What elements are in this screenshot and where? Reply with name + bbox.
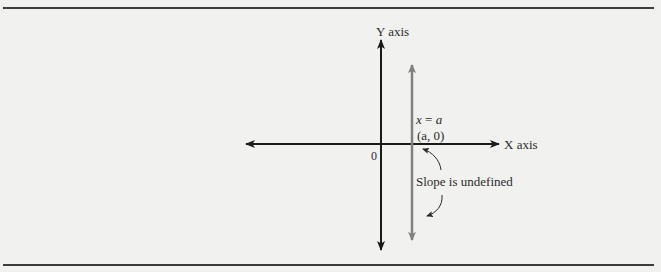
y-axis-label: Y axis xyxy=(376,25,409,38)
origin-label: 0 xyxy=(371,150,377,162)
equation-rhs: a xyxy=(436,112,443,127)
slope-annotation: Slope is undefined xyxy=(416,175,513,188)
equation-lhs: x xyxy=(416,112,422,127)
coordinate-diagram xyxy=(0,0,661,272)
x-axis-label: X axis xyxy=(504,138,538,151)
point-label: (a, 0) xyxy=(417,129,444,142)
equation-label: x = a xyxy=(416,113,442,126)
equation-equals: = xyxy=(425,112,432,127)
